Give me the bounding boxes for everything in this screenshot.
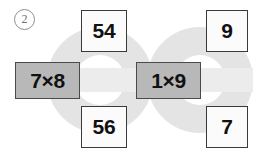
answer-card-top-left[interactable]: 54 [81, 10, 127, 52]
answer-card-bottom-right[interactable]: 7 [206, 106, 248, 148]
expression-card-left[interactable]: 7×8 [15, 62, 80, 99]
exercise-number-marker: 2 [14, 9, 35, 30]
answer-card-bottom-left[interactable]: 56 [81, 106, 127, 148]
answer-card-top-right[interactable]: 9 [206, 10, 248, 52]
expression-card-right[interactable]: 1×9 [136, 62, 201, 99]
worksheet-exercise: 2 54 56 9 7 7×8 1×9 [0, 0, 267, 157]
